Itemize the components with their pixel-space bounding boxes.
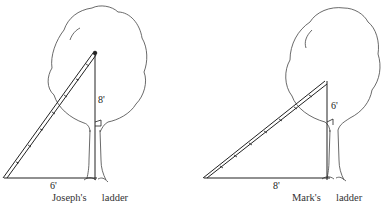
joseph-triangle	[3, 51, 101, 180]
mark-ladder-rail-a	[203, 81, 325, 178]
joseph-ladder-rail-a	[3, 53, 93, 178]
joseph-caption: Joseph's ladder	[52, 193, 128, 204]
joseph-caption-name: Joseph's	[52, 192, 87, 203]
mark-tree-icon	[286, 8, 380, 181]
joseph-caption-word: ladder	[102, 192, 128, 203]
joseph-base-label: 6'	[50, 181, 57, 191]
mark-vertical-label: 6'	[331, 101, 338, 111]
mark-base-label: 8'	[273, 181, 280, 191]
mark-triangle	[203, 81, 333, 180]
mark-caption-name: Mark's	[292, 192, 321, 203]
joseph-ladder-rail-b	[7, 55, 96, 178]
joseph-vertical-label: 8'	[98, 95, 105, 105]
mark-caption-word: ladder	[336, 192, 362, 203]
mark-ladder-rail-b	[207, 84, 327, 178]
diagram-canvas	[0, 0, 382, 208]
mark-caption: Mark's ladder	[292, 193, 362, 204]
